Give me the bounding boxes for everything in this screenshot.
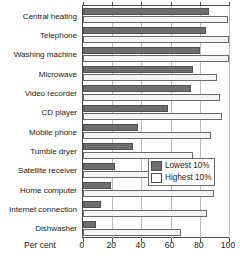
gridline bbox=[229, 6, 230, 238]
plot-area bbox=[82, 6, 229, 238]
bar-lowest bbox=[83, 85, 191, 92]
legend-item-highest: Highest 10% bbox=[151, 173, 211, 183]
category-label: Tumble dryer bbox=[0, 147, 77, 156]
category-label: CD player bbox=[0, 108, 77, 117]
category-label: Home computer bbox=[0, 185, 77, 194]
tick-mark-top bbox=[141, 2, 142, 6]
bar-highest bbox=[83, 132, 211, 139]
category-axis: Central heatingTelephoneWashing machineM… bbox=[0, 6, 80, 238]
plot-inner bbox=[83, 6, 229, 238]
category-label: Washing machine bbox=[0, 50, 77, 59]
x-tick-label: 40 bbox=[136, 240, 146, 251]
x-axis-title: Per cent bbox=[24, 240, 56, 251]
x-tick-label: 80 bbox=[194, 240, 204, 251]
bar-lowest bbox=[83, 221, 96, 228]
bar-highest bbox=[83, 190, 214, 197]
category-label: Satellite receiver bbox=[0, 166, 77, 175]
axis-line-top bbox=[82, 5, 229, 6]
tick-mark-top bbox=[83, 2, 84, 6]
bar-highest bbox=[83, 74, 217, 81]
category-label: Mobile phone bbox=[0, 127, 77, 136]
bar-lowest bbox=[83, 47, 200, 54]
bar-highest bbox=[83, 94, 220, 101]
legend-item-lowest: Lowest 10% bbox=[151, 161, 211, 171]
x-tick-label: 0 bbox=[80, 240, 85, 251]
chart-legend: Lowest 10% Highest 10% bbox=[148, 158, 215, 186]
bar-highest bbox=[83, 55, 229, 62]
tick-mark-top bbox=[229, 2, 230, 6]
x-axis-tick-labels: 020406080100 bbox=[82, 240, 228, 254]
category-label: Microwave bbox=[0, 69, 77, 78]
category-label: Video recorder bbox=[0, 89, 77, 98]
legend-label-lowest: Lowest 10% bbox=[165, 161, 210, 171]
tick-mark-top bbox=[171, 2, 172, 6]
bar-lowest bbox=[83, 27, 206, 34]
white-swatch-icon bbox=[151, 173, 162, 183]
bar-highest bbox=[83, 36, 229, 43]
axis-line-bottom bbox=[82, 237, 229, 238]
category-label: Internet connection bbox=[0, 205, 77, 214]
bar-lowest bbox=[83, 201, 101, 208]
x-tick-label: 20 bbox=[106, 240, 116, 251]
x-tick-label: 100 bbox=[221, 240, 235, 251]
category-label: Dishwasher bbox=[0, 224, 77, 233]
bar-lowest bbox=[83, 182, 111, 189]
x-tick-label: 60 bbox=[165, 240, 175, 251]
percent-ownership-bar-chart: Central heatingTelephoneWashing machineM… bbox=[0, 0, 240, 259]
bar-lowest bbox=[83, 8, 209, 15]
bar-lowest bbox=[83, 124, 138, 131]
bar-highest bbox=[83, 113, 222, 120]
tick-mark-top bbox=[200, 2, 201, 6]
category-label: Telephone bbox=[0, 31, 77, 40]
legend-label-highest: Highest 10% bbox=[165, 173, 211, 183]
dark-gray-swatch-icon bbox=[151, 161, 162, 171]
bar-highest bbox=[83, 229, 181, 236]
category-label: Central heating bbox=[0, 11, 77, 20]
bar-lowest bbox=[83, 163, 115, 170]
bar-lowest bbox=[83, 66, 193, 73]
bar-lowest bbox=[83, 105, 168, 112]
cropped-title-remnant bbox=[40, 0, 170, 3]
bar-highest bbox=[83, 16, 228, 23]
bar-highest bbox=[83, 210, 207, 217]
tick-mark-top bbox=[112, 2, 113, 6]
bar-lowest bbox=[83, 143, 133, 150]
